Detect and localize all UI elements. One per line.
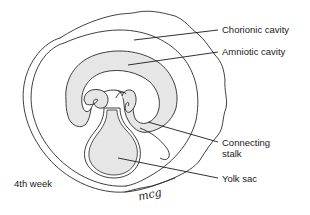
label-connecting-line2: stalk bbox=[222, 148, 270, 159]
label-yolk-sac: Yolk sac bbox=[222, 173, 257, 184]
leader-chorionic bbox=[134, 30, 218, 40]
label-chorionic-cavity: Chorionic cavity bbox=[222, 24, 289, 35]
caption-4th-week: 4th week bbox=[14, 178, 52, 189]
label-connecting-stalk: Connecting stalk bbox=[222, 137, 270, 159]
label-connecting-line1: Connecting bbox=[222, 137, 270, 148]
label-amniotic-cavity: Amniotic cavity bbox=[222, 46, 285, 57]
